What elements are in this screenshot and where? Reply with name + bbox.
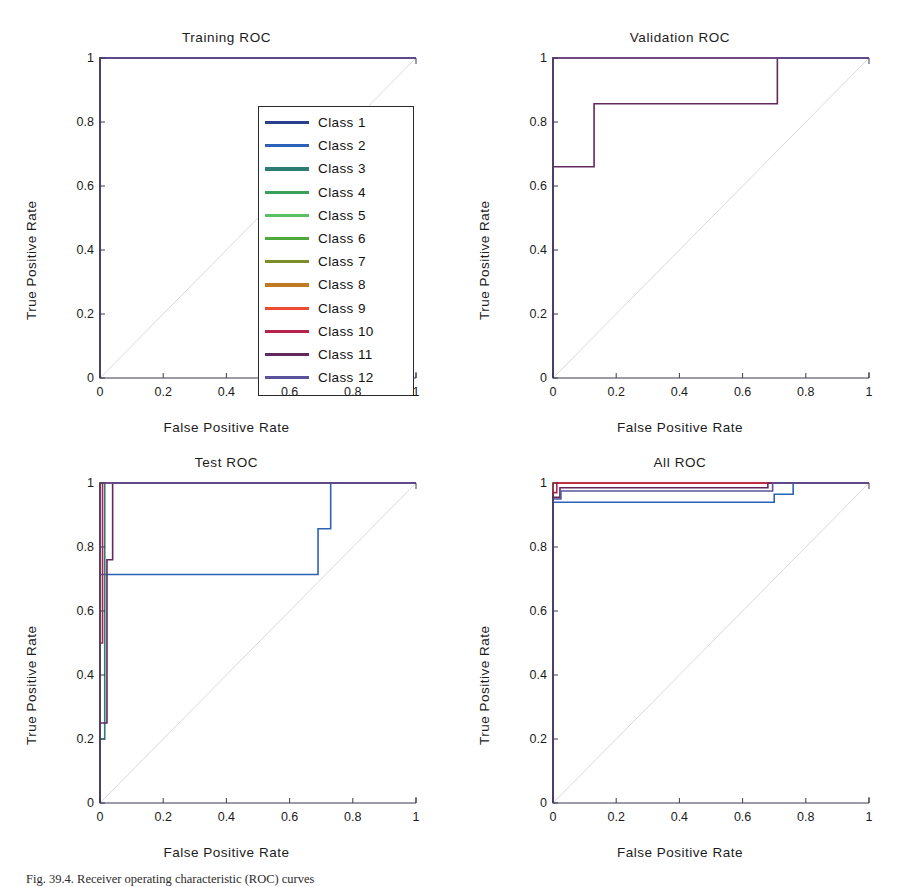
y-tick-label: 0.6: [54, 604, 94, 618]
x-tick-label: 1: [413, 385, 420, 399]
legend-item-1[interactable]: Class 1: [265, 111, 407, 134]
legend-color-swatch-icon: [265, 283, 309, 286]
panel-test-roc: Test ROC True Positive Rate False Positi…: [0, 455, 453, 880]
y-axis-label-validation: True Positive Rate: [477, 200, 492, 320]
y-tick-label: 0.6: [507, 179, 547, 193]
panel-training-roc: Training ROC True Positive Rate False Po…: [0, 30, 453, 455]
legend-color-swatch-icon: [265, 144, 309, 147]
x-tick-label: 0: [97, 385, 104, 399]
legend-color-swatch-icon: [265, 167, 309, 170]
y-tick-label: 0: [507, 371, 547, 385]
diagonal-reference-line: [100, 483, 416, 803]
legend-item-6[interactable]: Class 6: [265, 227, 407, 250]
legend-item-label: Class 2: [318, 138, 366, 153]
legend-color-swatch-icon: [265, 330, 309, 333]
y-axis-label-all: True Positive Rate: [477, 625, 492, 745]
legend-item-label: Class 6: [318, 231, 366, 246]
x-tick-label: 0.2: [607, 385, 624, 399]
y-tick-label: 1: [507, 51, 547, 65]
x-tick-label: 0.6: [734, 810, 751, 824]
x-tick-label: 0.6: [281, 385, 298, 399]
plot-canvas-all: [553, 483, 883, 813]
legend-item-9[interactable]: Class 9: [265, 297, 407, 320]
legend-item-label: Class 12: [318, 370, 374, 385]
legend-color-swatch-icon: [265, 376, 309, 379]
x-tick-label: 0.4: [218, 810, 235, 824]
x-tick-label: 0.6: [281, 810, 298, 824]
panel-title-all: All ROC: [453, 455, 907, 470]
x-tick-label: 0.4: [218, 385, 235, 399]
y-tick-label: 0: [54, 796, 94, 810]
diagonal-reference-line: [553, 483, 869, 803]
diagonal-reference-line: [553, 58, 869, 378]
x-tick-label: 1: [866, 810, 873, 824]
x-tick-label: 0.8: [797, 810, 814, 824]
y-tick-label: 0.8: [507, 115, 547, 129]
x-axis-label-test: False Positive Rate: [0, 845, 453, 860]
legend-color-swatch-icon: [265, 214, 309, 217]
x-tick-label: 1: [866, 385, 873, 399]
y-tick-label: 0.6: [54, 179, 94, 193]
legend-item-10[interactable]: Class 10: [265, 320, 407, 343]
x-tick-label: 0.4: [671, 810, 688, 824]
y-tick-label: 0.8: [54, 115, 94, 129]
y-tick-label: 0.4: [54, 668, 94, 682]
x-tick-label: 0: [550, 810, 557, 824]
legend-item-label: Class 9: [318, 301, 366, 316]
y-tick-label: 0.4: [507, 243, 547, 257]
legend-color-swatch-icon: [265, 121, 309, 124]
legend-training: Class 1Class 2Class 3Class 4Class 5Class…: [258, 106, 414, 396]
legend-color-swatch-icon: [265, 307, 309, 310]
y-axis-label-test: True Positive Rate: [24, 625, 39, 745]
plot-canvas-test: [100, 483, 430, 813]
legend-item-11[interactable]: Class 11: [265, 343, 407, 366]
legend-item-3[interactable]: Class 3: [265, 157, 407, 180]
x-tick-label: 0.4: [671, 385, 688, 399]
panel-all-roc: All ROC True Positive Rate False Positiv…: [453, 455, 907, 880]
x-tick-label: 0.8: [344, 810, 361, 824]
y-tick-label: 0.4: [54, 243, 94, 257]
y-tick-label: 0: [54, 371, 94, 385]
legend-color-swatch-icon: [265, 353, 309, 356]
legend-item-7[interactable]: Class 7: [265, 250, 407, 273]
y-tick-label: 0: [507, 796, 547, 810]
y-tick-label: 0.8: [507, 540, 547, 554]
legend-item-label: Class 8: [318, 277, 366, 292]
x-tick-label: 0.6: [734, 385, 751, 399]
y-tick-label: 0.6: [507, 604, 547, 618]
legend-item-label: Class 11: [318, 347, 373, 362]
y-tick-label: 0.2: [507, 307, 547, 321]
legend-item-label: Class 10: [318, 324, 374, 339]
panel-title-training: Training ROC: [0, 30, 453, 45]
x-tick-label: 0.2: [607, 810, 624, 824]
plot-area-all: [553, 483, 869, 803]
legend-color-swatch-icon: [265, 191, 309, 194]
x-tick-label: 0.2: [154, 810, 171, 824]
panel-validation-roc: Validation ROC True Positive Rate False …: [453, 30, 907, 455]
figure-caption: Fig. 39.4. Receiver operating characteri…: [26, 872, 314, 887]
panel-title-test: Test ROC: [0, 455, 453, 470]
x-axis-label-validation: False Positive Rate: [453, 420, 907, 435]
y-tick-label: 0.2: [54, 732, 94, 746]
plot-area-validation: [553, 58, 869, 378]
legend-item-label: Class 3: [318, 161, 366, 176]
panel-title-validation: Validation ROC: [453, 30, 907, 45]
y-tick-label: 0.2: [507, 732, 547, 746]
legend-item-label: Class 5: [318, 208, 366, 223]
y-tick-label: 0.4: [507, 668, 547, 682]
legend-item-label: Class 7: [318, 254, 366, 269]
legend-item-8[interactable]: Class 8: [265, 273, 407, 296]
plot-area-test: [100, 483, 416, 803]
legend-item-4[interactable]: Class 4: [265, 181, 407, 204]
legend-item-label: Class 1: [318, 115, 366, 130]
y-tick-label: 1: [507, 476, 547, 490]
legend-item-2[interactable]: Class 2: [265, 134, 407, 157]
legend-color-swatch-icon: [265, 260, 309, 263]
x-axis-label-training: False Positive Rate: [0, 420, 453, 435]
x-tick-label: 0: [97, 810, 104, 824]
x-tick-label: 0: [550, 385, 557, 399]
legend-item-5[interactable]: Class 5: [265, 204, 407, 227]
y-axis-label-training: True Positive Rate: [24, 200, 39, 320]
legend-item-label: Class 4: [318, 185, 366, 200]
